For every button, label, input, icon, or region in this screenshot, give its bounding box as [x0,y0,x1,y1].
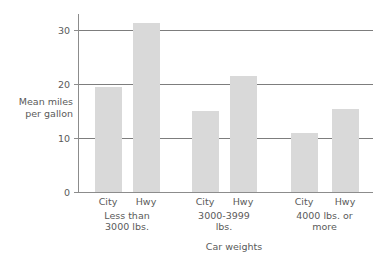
bar-series-label: City [196,196,215,207]
chart-canvas: 0102030 CityHwyCityHwyCityHwy Less than3… [0,0,390,264]
bar [133,23,160,192]
bar-chart: 0102030 CityHwyCityHwyCityHwy Less than3… [0,0,390,264]
y-tick-label: 0 [64,187,70,198]
group-label-line: Less than [104,210,149,221]
group-label-line: 3000-3999 [198,210,250,221]
y-tick-label: 20 [58,79,70,90]
group-label-line: lbs. [216,221,233,232]
bar [230,76,257,192]
y-axis-title-line2: per gallon [25,108,73,119]
y-axis-title-line1: Mean miles [19,96,73,107]
group-label-line: 4000 lbs. or [296,210,353,221]
y-tick-label: 30 [58,25,70,36]
group-label-line: 3000 lbs. [105,221,149,232]
group-labels: Less than3000 lbs.3000-3999lbs.4000 lbs.… [104,210,353,232]
bar-series-label: Hwy [335,196,356,207]
bar [332,109,359,192]
bar-series-label: City [99,196,118,207]
bar [95,87,122,192]
bar [192,111,219,192]
bar-series-label: Hwy [136,196,157,207]
x-axis-title: Car weights [206,241,262,252]
bar-series-label: Hwy [233,196,254,207]
group-label-line: more [312,221,337,232]
y-tick-label: 10 [58,133,70,144]
bar [291,133,318,192]
bar-series-label: City [295,196,314,207]
